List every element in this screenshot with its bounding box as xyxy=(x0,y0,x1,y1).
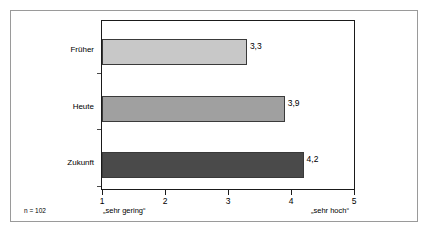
scale-anchor-low: „sehr gering“ xyxy=(103,206,146,215)
x-axis-tick xyxy=(354,190,355,195)
x-axis-tick-label: 4 xyxy=(289,196,294,206)
bar-heute xyxy=(102,96,285,122)
x-axis-tick-label: 5 xyxy=(352,196,357,206)
category-label-1: Heute xyxy=(14,102,94,111)
x-axis-tick xyxy=(102,190,103,195)
bar-zukunft xyxy=(102,152,304,178)
sample-size-note: n = 102 xyxy=(24,207,46,214)
value-label-frueher: 3,3 xyxy=(250,41,262,51)
x-axis-tick-label: 2 xyxy=(163,196,168,206)
bar-frueher xyxy=(102,39,247,65)
value-label-heute: 3,9 xyxy=(288,98,300,108)
x-axis-tick xyxy=(291,190,292,195)
x-axis-tick xyxy=(165,190,166,195)
x-axis-tick-label: 1 xyxy=(100,196,105,206)
category-label-2: Zukunft xyxy=(14,158,94,167)
scale-anchor-high: „sehr hoch“ xyxy=(311,206,349,215)
category-label-0: Früher xyxy=(14,45,94,54)
plot-area xyxy=(101,20,355,190)
x-axis-tick-label: 3 xyxy=(226,196,231,206)
x-axis-tick xyxy=(228,190,229,195)
value-label-zukunft: 4,2 xyxy=(307,154,319,164)
bar-chart-figure: Früher Heute Zukunft 3,3 3,9 4,2 12345 n… xyxy=(0,0,430,234)
